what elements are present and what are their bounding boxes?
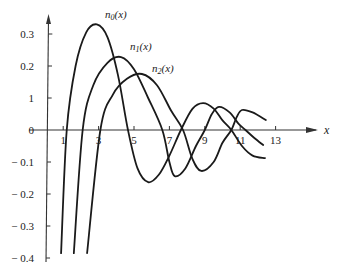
x-tick-label: 9 <box>202 134 208 146</box>
y-tick-label: − 0.4 <box>11 252 34 264</box>
y-tick-label: − 0.1 <box>11 156 34 168</box>
y-axis-arrow <box>46 14 51 24</box>
y-tick-label: 0.3 <box>20 28 34 40</box>
chart: x 135791113 0.30.210− 0.1− 0.2− 0.3− 0.4… <box>0 0 347 275</box>
x-axis-arrow <box>306 127 318 133</box>
x-ticks: 135791113 <box>60 126 281 146</box>
x-tick-label: 13 <box>270 134 282 146</box>
series-label: n0(x) <box>105 8 127 22</box>
x-axis-label: x <box>323 123 330 137</box>
series-line-n2x <box>87 74 266 253</box>
y-tick-label: 1 <box>29 92 35 104</box>
series-label: n2(x) <box>152 62 174 76</box>
series-label: n1(x) <box>130 40 152 54</box>
axes: x <box>29 14 330 262</box>
y-axis <box>46 18 49 262</box>
y-tick-label: − 0.3 <box>11 220 34 232</box>
y-tick-label: 0 <box>29 124 35 136</box>
series-line-n1x <box>74 57 263 253</box>
x-tick-label: 5 <box>131 134 137 146</box>
y-tick-label: − 0.2 <box>11 188 34 200</box>
y-tick-label: 0.2 <box>20 60 34 72</box>
x-tick-label: 7 <box>167 134 173 146</box>
